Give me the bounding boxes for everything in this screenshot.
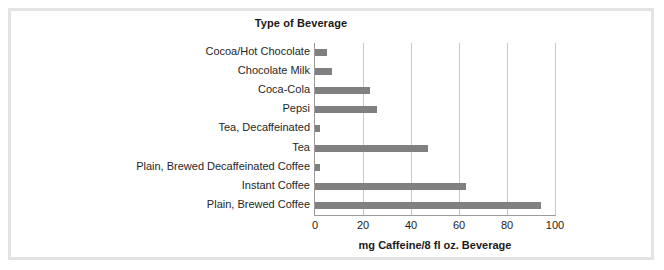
category-label: Cocoa/Hot Chocolate (205, 44, 315, 59)
bar (315, 164, 320, 171)
bar-row: Coca-Cola (315, 81, 555, 100)
bar (315, 145, 428, 152)
bar (315, 106, 377, 113)
category-label: Chocolate Milk (238, 63, 315, 78)
figure-frame: Type of Beverage Cocoa/Hot ChocolateChoc… (8, 8, 654, 260)
gridline (555, 43, 556, 215)
plot-area: Cocoa/Hot ChocolateChocolate MilkCoca-Co… (314, 43, 556, 216)
category-label: Plain, Brewed Coffee (207, 197, 315, 212)
bar (315, 49, 327, 56)
x-tick-label: 0 (312, 219, 318, 231)
bar (315, 202, 541, 209)
bar-row: Plain, Brewed Decaffeinated Coffee (315, 158, 555, 177)
x-tick-label: 80 (501, 219, 513, 231)
x-tick-label: 20 (357, 219, 369, 231)
x-axis-label: mg Caffeine/8 fl oz. Beverage (315, 239, 555, 251)
bar (315, 87, 370, 94)
bar-row: Chocolate Milk (315, 62, 555, 81)
bar-row: Tea, Decaffeinated (315, 119, 555, 138)
bar (315, 68, 332, 75)
bar-chart: Type of Beverage Cocoa/Hot ChocolateChoc… (11, 11, 657, 263)
category-label: Pepsi (282, 101, 315, 116)
category-label: Tea, Decaffeinated (218, 120, 315, 135)
bar-row: Instant Coffee (315, 177, 555, 196)
category-label: Plain, Brewed Decaffeinated Coffee (136, 159, 315, 174)
x-tick-label: 60 (453, 219, 465, 231)
category-label: Instant Coffee (242, 178, 315, 193)
bar-row: Cocoa/Hot Chocolate (315, 43, 555, 62)
category-label: Coca-Cola (258, 82, 315, 97)
bar-row: Plain, Brewed Coffee (315, 196, 555, 215)
bar (315, 183, 466, 190)
bar-row: Tea (315, 139, 555, 158)
bar-row: Pepsi (315, 100, 555, 119)
category-label: Tea (292, 140, 315, 155)
x-tick-label: 100 (546, 219, 564, 231)
bar (315, 125, 320, 132)
x-tick-label: 40 (405, 219, 417, 231)
chart-title: Type of Beverage (151, 17, 451, 29)
